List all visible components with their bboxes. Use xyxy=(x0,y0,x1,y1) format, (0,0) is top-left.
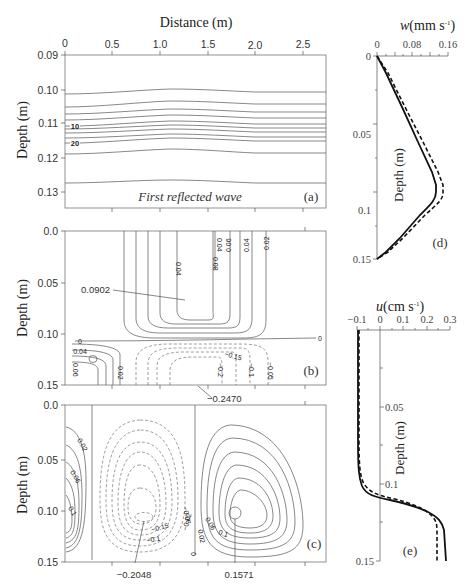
y-tick-label: 0 xyxy=(366,51,371,62)
panel-a-isolines xyxy=(65,89,326,183)
panel-b-isolines xyxy=(72,231,316,385)
contour-label: 0.04 xyxy=(175,262,182,276)
extremum-max-label: 0.1571 xyxy=(224,569,253,580)
x-tick-label: 0.16 xyxy=(439,39,457,50)
contour-label: 0.1 xyxy=(67,505,78,517)
y-tick-label: 0.12 xyxy=(38,152,59,164)
y-tick-label: 0.15 xyxy=(38,556,59,568)
y-axis-title: Depth (m) xyxy=(15,279,31,337)
x-tick-label: 0 xyxy=(374,39,379,50)
y-tick-label: 0.10 xyxy=(38,328,59,340)
d-y-axis-title: Depth (m) xyxy=(391,148,406,202)
panel-label-b: (b) xyxy=(303,363,318,378)
y-axis-title: Depth (m) xyxy=(15,101,31,159)
e-x-axis-title: u(cm s-1) xyxy=(376,299,425,315)
contour-label: 0.04 xyxy=(243,238,250,252)
contour-label: 0.06 xyxy=(72,363,79,377)
contour-label: 0 xyxy=(318,335,322,342)
y-tick-label: 0.15 xyxy=(356,556,374,567)
x-tick-label: 0.08 xyxy=(403,39,421,50)
d-y-ticks xyxy=(373,56,377,259)
y-tick-label: 0.15 xyxy=(38,379,59,391)
figure-canvas: Distance (m) 0 0.5 1.0 1.5 2.0 2.5 xyxy=(0,0,472,588)
x-tick-label: −0.1 xyxy=(347,314,366,325)
y-tick-label: 0.05 xyxy=(38,454,59,466)
e-x-ticks xyxy=(357,326,450,330)
contour-label: 0 xyxy=(78,338,82,345)
panel-label-d: (d) xyxy=(432,235,447,250)
panel-c-isolines xyxy=(66,405,303,560)
contour-label: −0.05 xyxy=(267,362,274,380)
contour-label: 0.02 xyxy=(197,529,206,544)
x-tick-label: 0 xyxy=(377,314,382,325)
x-tick-label: 0.3 xyxy=(443,314,456,325)
panel-a-frame xyxy=(65,55,326,208)
x-tick-label: 2.5 xyxy=(296,38,311,50)
extremum-min-label: −0.2048 xyxy=(117,569,152,580)
leader-line xyxy=(135,521,144,563)
d-profile-solid xyxy=(377,56,436,259)
panel-label-e: (e) xyxy=(403,543,417,558)
panel-b: 0.0 0.05 0.10 0.15 Depth (m) xyxy=(15,225,326,404)
y-tick-label: 0.1 xyxy=(358,205,371,216)
extremum-max-label: 0.0902 xyxy=(81,284,110,295)
x-axis-title: Distance (m) xyxy=(160,15,233,31)
y-tick-label: 0.0 xyxy=(43,225,58,237)
contour-label: 0.06 xyxy=(204,516,217,531)
panel-c-frame xyxy=(65,405,326,562)
contour-label: 0.1 xyxy=(218,528,230,538)
panel-e: u(cm s-1) −0.1 0 0.1 0.2 0.3 0.05 0.1 0.… xyxy=(347,299,456,567)
contour-label: 0.04 xyxy=(216,238,223,252)
y-tick-label: 0.10 xyxy=(38,84,59,96)
contour-label: 0.02 xyxy=(117,366,124,380)
contour-label: −0.1 xyxy=(248,363,255,377)
y-tick-label: 0.11 xyxy=(38,117,58,129)
y-tick-label: 0.05 xyxy=(385,402,403,413)
y-tick-label: 0.10 xyxy=(38,505,59,517)
panel-c: 0.0 0.05 0.10 0.15 Depth (m) xyxy=(15,399,326,580)
x-axis-ticks: 0 0.5 1.0 1.5 2.0 2.5 xyxy=(62,37,310,55)
panel-a: 0 0.5 1.0 1.5 2.0 2.5 0.09 0.10 0.11 0.1… xyxy=(15,37,326,212)
y-axis-title: Depth (m) xyxy=(15,456,31,514)
y-axis-ticks: 0.09 0.10 0.11 0.12 0.13 xyxy=(38,49,65,198)
panel-label-a: (a) xyxy=(304,189,318,204)
y-tick-label: 0.0 xyxy=(43,399,58,411)
x-tick-label: 0.2 xyxy=(420,314,433,325)
x-tick-label: 1.5 xyxy=(201,38,216,50)
x-tick-label: 0 xyxy=(62,37,68,49)
e-y-axis-title: Depth (m) xyxy=(392,421,407,475)
contour-label: −0.15 xyxy=(150,522,169,533)
contour-label: 20 xyxy=(71,139,79,148)
panel-d: w(mm s-1) 0 0.08 0.16 0 0.05 0.1 0.15 De… xyxy=(353,18,458,265)
x-tick-label: 1.0 xyxy=(153,38,168,50)
y-tick-label: 0.05 xyxy=(353,129,371,140)
d-x-axis-title: w(mm s-1) xyxy=(400,18,456,34)
y-tick-label: 0.13 xyxy=(38,186,59,198)
y-tick-label: 0.1 xyxy=(385,479,398,490)
contour-label: −0.15 xyxy=(224,350,243,361)
contour-label: 0.02 xyxy=(263,236,270,250)
y-axis-ticks: 0.0 0.05 0.10 0.15 xyxy=(38,399,65,568)
x-tick-label: 0.1 xyxy=(396,314,409,325)
contour-label: 10 xyxy=(71,122,79,131)
panel-label-c: (c) xyxy=(307,536,321,551)
y-tick-label: 0.05 xyxy=(38,277,59,289)
extremum-min-label: −0.2470 xyxy=(207,393,242,404)
contour-label: 0.04 xyxy=(73,348,87,355)
contour-label: 0 xyxy=(190,552,197,556)
contour-label: 0.06 xyxy=(225,238,232,252)
x-tick-label: 2.0 xyxy=(248,39,263,51)
d-x-minor-ticks xyxy=(377,52,448,56)
y-tick-label: 0.09 xyxy=(38,49,59,61)
contour-label: 0.02 xyxy=(76,437,89,452)
annotation-first-reflected-wave: First reflected wave xyxy=(137,189,242,204)
x-tick-label: 0.5 xyxy=(105,38,120,50)
y-tick-label: 0.15 xyxy=(353,254,371,265)
contour-label: −0.2 xyxy=(217,363,224,377)
contour-label: 0.08 xyxy=(212,257,219,271)
y-axis-ticks: 0.0 0.05 0.10 0.15 xyxy=(38,225,65,391)
d-profile-dashed xyxy=(377,56,443,259)
